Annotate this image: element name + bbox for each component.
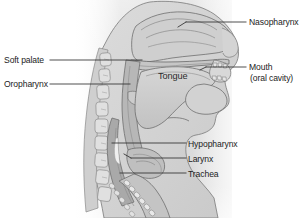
label-trachea: Trachea <box>188 169 219 180</box>
label-soft-palate: Soft palate <box>4 55 44 66</box>
label-hypopharynx: Hypopharynx <box>188 139 238 150</box>
lower-teeth <box>212 76 227 81</box>
label-larynx: Larynx <box>188 154 213 165</box>
label-mouth-sublabel: (oral cavity) <box>249 73 293 84</box>
anatomy-diagram-figure: Nasopharynx Soft palate Oropharynx Mouth… <box>0 0 303 218</box>
label-mouth-group: Mouth (oral cavity) <box>249 62 293 83</box>
label-nasopharynx: Nasopharynx <box>249 17 299 28</box>
label-mouth: Mouth <box>249 62 272 72</box>
anatomy-illustration <box>0 0 303 218</box>
label-oropharynx: Oropharynx <box>4 79 48 90</box>
label-tongue: Tongue <box>158 71 188 82</box>
